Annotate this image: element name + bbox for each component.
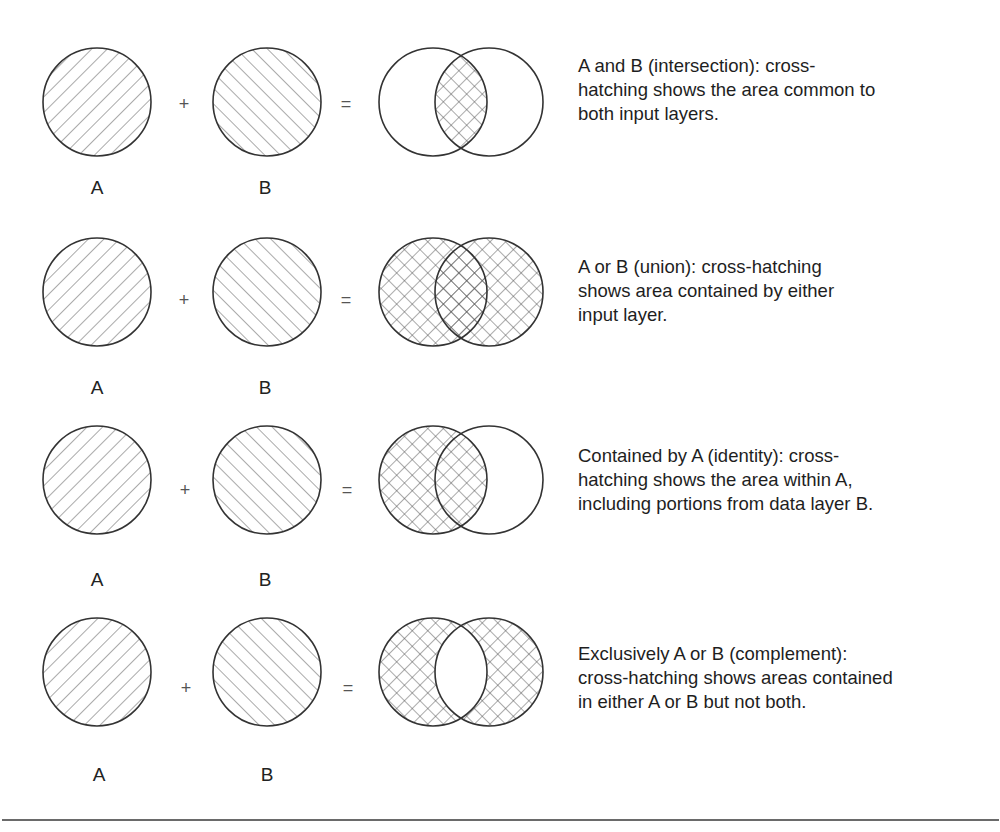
label-a: A bbox=[91, 378, 104, 397]
description-line: shows area contained by either bbox=[578, 279, 978, 303]
plus-sign: + bbox=[179, 291, 190, 309]
layer-a-circle bbox=[43, 426, 151, 534]
description-line: input layer. bbox=[578, 303, 978, 327]
layer-a-circle bbox=[43, 48, 151, 156]
description-line: including portions from data layer B. bbox=[578, 492, 978, 516]
label-b: B bbox=[261, 765, 274, 784]
description-line: hatching shows the area common to bbox=[578, 78, 978, 102]
label-a: A bbox=[93, 765, 106, 784]
equals-sign: = bbox=[343, 679, 354, 697]
description-line: hatching shows the area within A, bbox=[578, 468, 978, 492]
layer-b-circle bbox=[213, 618, 321, 726]
label-a: A bbox=[91, 570, 104, 589]
plus-sign: + bbox=[180, 481, 191, 499]
identity-result-venn bbox=[379, 426, 543, 534]
row-intersection bbox=[43, 48, 543, 156]
description-line: A and B (intersection): cross- bbox=[578, 54, 978, 78]
intersection-result-venn bbox=[379, 48, 543, 156]
label-b: B bbox=[259, 178, 272, 197]
row-identity bbox=[43, 426, 543, 534]
label-b: B bbox=[259, 570, 272, 589]
layer-a-circle bbox=[43, 618, 151, 726]
layer-b-circle bbox=[213, 238, 321, 346]
row-complement bbox=[43, 618, 543, 726]
label-a: A bbox=[91, 178, 104, 197]
plus-sign: + bbox=[179, 95, 190, 113]
description-union: A or B (union): cross-hatching shows are… bbox=[578, 255, 978, 327]
description-line: Contained by A (identity): cross- bbox=[578, 444, 978, 468]
equals-sign: = bbox=[341, 291, 352, 309]
label-b: B bbox=[259, 378, 272, 397]
layer-a-circle bbox=[43, 238, 151, 346]
description-line: A or B (union): cross-hatching bbox=[578, 255, 978, 279]
row-union bbox=[43, 238, 543, 346]
description-complement: Exclusively A or B (complement): cross-h… bbox=[578, 642, 978, 714]
description-intersection: A and B (intersection): cross- hatching … bbox=[578, 54, 978, 126]
layer-b-circle bbox=[213, 48, 321, 156]
description-identity: Contained by A (identity): cross- hatchi… bbox=[578, 444, 978, 516]
equals-sign: = bbox=[341, 95, 352, 113]
layer-b-circle bbox=[213, 426, 321, 534]
equals-sign: = bbox=[342, 481, 353, 499]
plus-sign: + bbox=[181, 679, 192, 697]
bottom-divider bbox=[2, 819, 999, 821]
complement-result-venn bbox=[379, 618, 543, 726]
description-line: in either A or B but not both. bbox=[578, 690, 978, 714]
description-line: cross-hatching shows areas contained bbox=[578, 666, 978, 690]
description-line: Exclusively A or B (complement): bbox=[578, 642, 978, 666]
union-result-venn bbox=[379, 238, 543, 346]
description-line: both input layers. bbox=[578, 102, 978, 126]
